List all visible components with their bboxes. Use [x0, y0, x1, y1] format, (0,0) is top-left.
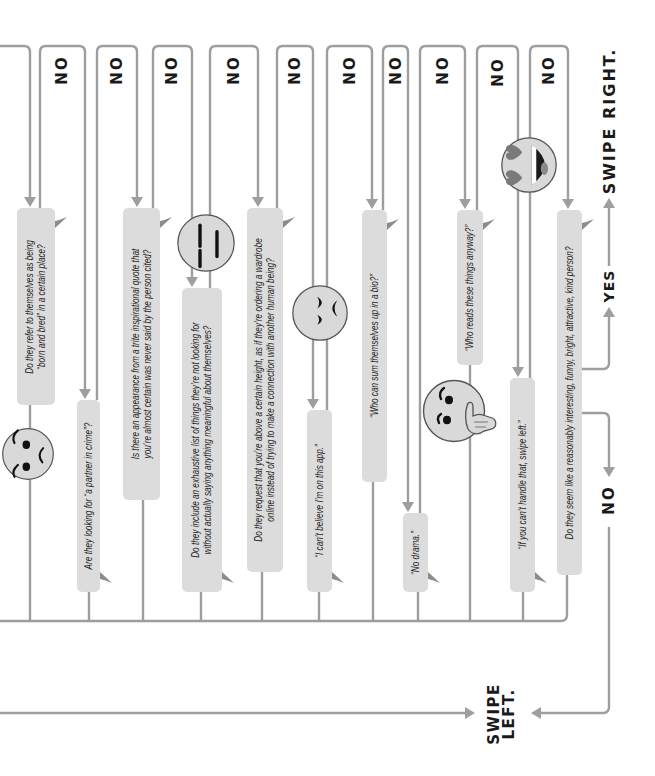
arrow-down-icon — [307, 399, 319, 409]
question-text: Are they looking for “a partner in crime… — [83, 400, 95, 592]
speech-tail-icon — [428, 572, 440, 583]
speech-tail-icon — [55, 217, 67, 228]
thinking-face-icon — [422, 379, 502, 443]
question-text: “I can’t believe I’m on this app.” — [314, 410, 326, 592]
question-line: Do they request that you’re above a cert… — [253, 208, 265, 572]
arrow-down-icon — [24, 197, 36, 207]
question-bubble-6: “I can’t believe I’m on this app.” — [307, 410, 332, 592]
arrow-down-icon — [512, 367, 524, 377]
swipe-left-outcome: SWIPE LEFT. — [487, 683, 517, 745]
question-line: “born and bred” in a certain place? — [36, 208, 48, 405]
question-line: “Who can sum themselves up in a bio?” — [369, 210, 381, 482]
question-bubble-1: Do they refer to themselves as being “bo… — [17, 208, 55, 405]
question-line: online instead of trying to make a conne… — [265, 208, 277, 572]
question-bubble-8: “No drama.” — [403, 513, 428, 592]
speech-tail-icon — [483, 219, 495, 230]
question-line: Is there an appearance from a trite insp… — [130, 208, 142, 500]
no-label-9: NO — [491, 57, 506, 86]
question-text: “No drama.” — [410, 513, 422, 592]
question-bubble-11: Do they seem like a reasonably interesti… — [557, 210, 582, 575]
arrow-down-icon — [186, 277, 198, 287]
question-text: Is there an appearance from a trite insp… — [130, 208, 154, 500]
arrow-down-icon — [252, 197, 264, 207]
frowning-face-icon — [291, 284, 349, 342]
no-label-3: NO — [165, 55, 180, 84]
question-line: Do they seem like a reasonably interesti… — [564, 210, 576, 575]
question-line: “If you can’t handle that, swipe left.” — [517, 378, 529, 592]
question-line: Do they refer to themselves as being — [24, 208, 36, 405]
arrow-down-icon — [366, 199, 378, 209]
question-text: “Who reads these things anyway?” — [464, 210, 476, 365]
speech-tail-icon — [582, 219, 594, 230]
arrow-up-icon — [603, 307, 615, 317]
question-line: “I can’t believe I’m on this app.” — [314, 410, 326, 592]
question-text: “If you can’t handle that, swipe left.” — [517, 378, 529, 592]
final-yes-line-lower — [582, 317, 609, 369]
speech-tail-icon — [387, 219, 399, 230]
arrow-up-icon — [603, 198, 615, 208]
speech-tail-icon — [222, 572, 234, 583]
final-no-line-upper — [582, 413, 609, 467]
no-label-1: NO — [55, 55, 70, 84]
no-label-8: NO — [436, 55, 451, 84]
question-bubble-4: Do they include an exhaustive list of th… — [182, 288, 222, 592]
speech-tail-icon — [100, 572, 112, 583]
speech-tail-icon — [535, 572, 547, 583]
swipe-right-outcome: SWIPE RIGHT. — [602, 48, 618, 195]
arrow-right-icon — [465, 707, 475, 719]
arrow-down-icon — [562, 199, 574, 209]
arrow-down-icon — [79, 389, 91, 399]
question-bubble-2: Are they looking for “a partner in crime… — [77, 400, 100, 592]
final-no-label: NO — [602, 485, 617, 514]
question-text: Do they seem like a reasonably interesti… — [564, 210, 576, 575]
question-text: Do they refer to themselves as being “bo… — [24, 208, 48, 405]
arrow-down-icon — [603, 467, 615, 477]
no-branch-line-9 — [477, 46, 518, 368]
question-line: Do they include an exhaustive list of th… — [190, 288, 202, 592]
expressionless-face-icon — [176, 213, 236, 273]
question-line: “Who reads these things anyway?” — [464, 210, 476, 365]
question-line: without actually saying anything meaning… — [202, 288, 214, 592]
question-bubble-3: Is there an appearance from a trite insp… — [123, 208, 160, 500]
question-bubble-10: “If you can’t handle that, swipe left.” — [510, 378, 535, 592]
question-line: Are they looking for “a partner in crime… — [83, 400, 95, 592]
question-bubble-7: “Who can sum themselves up in a bio?” — [362, 210, 387, 482]
question-text: Do they request that you’re above a cert… — [253, 208, 277, 572]
no-label-4: NO — [227, 55, 242, 84]
speech-tail-icon — [332, 572, 344, 583]
smirking-face-icon — [1, 427, 55, 481]
no-label-10: NO — [542, 55, 557, 84]
no-label-2: NO — [110, 55, 125, 84]
question-line: you’re almost certain was never said by … — [142, 208, 154, 500]
entry-line — [0, 46, 30, 198]
question-line: “No drama.” — [410, 513, 422, 592]
arrow-down-icon — [402, 502, 414, 512]
question-text: “Who can sum themselves up in a bio?” — [369, 210, 381, 482]
no-label-5: NO — [288, 55, 303, 84]
arrow-left-icon — [531, 707, 541, 719]
question-bubble-5: Do they request that you’re above a cert… — [247, 208, 283, 572]
yes-label: YES — [602, 270, 616, 303]
speech-tail-icon — [283, 217, 295, 228]
swipe-left-line-2: LEFT. — [502, 683, 517, 745]
heart-eyes-laughing-face-icon — [500, 136, 558, 194]
question-text: Do they include an exhaustive list of th… — [190, 288, 214, 592]
arrow-down-icon — [459, 199, 471, 209]
question-bubble-9: “Who reads these things anyway?” — [457, 210, 483, 365]
no-label-7: NO — [389, 55, 404, 84]
dating-profile-flowchart: NO NO NO NO NO NO NO NO NO NO Do they re… — [0, 0, 655, 776]
speech-tail-icon — [160, 217, 172, 228]
arrow-down-icon — [131, 197, 143, 207]
no-label-6: NO — [343, 55, 358, 84]
